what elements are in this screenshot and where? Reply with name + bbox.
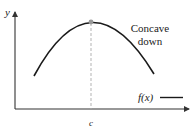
concave-annotation-line1: Concave: [131, 22, 170, 34]
concavity-diagram: y c Concave down f(x): [0, 0, 190, 128]
legend-label-fx: f(x): [138, 91, 154, 104]
maximum-point: [89, 20, 94, 25]
x-tick-label-c: c: [89, 118, 93, 128]
y-axis-label: y: [4, 6, 10, 18]
concave-annotation-line2: down: [138, 35, 163, 47]
